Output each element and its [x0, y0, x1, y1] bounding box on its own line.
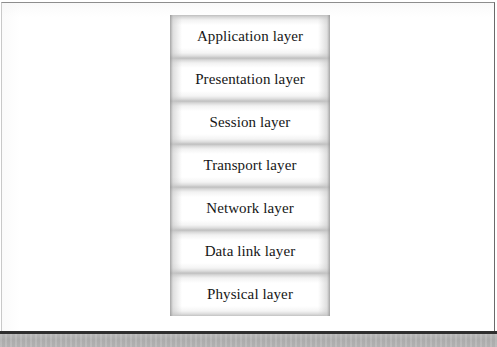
layer-box-application[interactable]: Application layer — [170, 15, 330, 58]
layer-label: Session layer — [210, 115, 291, 130]
layer-box-transport[interactable]: Transport layer — [170, 144, 330, 187]
layer-label: Presentation layer — [195, 72, 305, 87]
layer-label: Data link layer — [205, 244, 296, 259]
layer-box-session[interactable]: Session layer — [170, 101, 330, 144]
layer-label: Transport layer — [203, 158, 296, 173]
layer-label: Physical layer — [207, 287, 293, 302]
layer-box-data-link[interactable]: Data link layer — [170, 230, 330, 273]
osi-layer-stack: Application layer Presentation layer Ses… — [170, 15, 330, 316]
layer-box-network[interactable]: Network layer — [170, 187, 330, 230]
layer-box-presentation[interactable]: Presentation layer — [170, 58, 330, 101]
layer-box-physical[interactable]: Physical layer — [170, 273, 330, 316]
scanned-page: Application layer Presentation layer Ses… — [0, 0, 497, 347]
layer-label: Network layer — [206, 201, 294, 216]
page-gutter-strip — [0, 334, 497, 347]
layer-label: Application layer — [197, 29, 303, 44]
